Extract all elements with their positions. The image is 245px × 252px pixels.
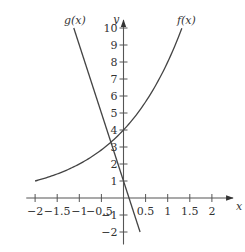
y-tick-label: 10 [104,22,118,35]
y-tick-label: 4 [111,124,118,137]
f-label: f(x) [176,14,196,27]
y-tick-label: 5 [111,107,118,120]
y-tick-label: −2 [101,226,117,239]
y-tick-label: 8 [111,56,118,69]
curve-f [35,28,182,181]
x-tick-label: −1.5 [44,205,71,218]
labels: xy−2−1.5−1−0.50.511.52−2−112345678910g(x… [27,13,243,239]
x-tick-label: −2 [27,205,43,218]
x-tick-label: 0.5 [137,205,155,218]
y-tick-label: 6 [111,90,118,103]
y-tick-label: 1 [111,175,118,188]
y-tick-label: 9 [111,39,118,52]
y-tick-label: 2 [111,158,118,171]
curve-g [74,28,140,232]
x-tick-label: 1 [164,205,171,218]
chart-container: xy−2−1.5−1−0.50.511.52−2−112345678910g(x… [0,0,245,252]
y-tick-label: 7 [111,73,118,86]
x-axis-label: x [236,200,243,213]
x-tick-label: 2 [208,205,215,218]
x-tick-label: 1.5 [181,205,199,218]
y-tick-label: 3 [111,141,118,154]
g-label: g(x) [64,14,86,27]
function-plot: xy−2−1.5−1−0.50.511.52−2−112345678910g(x… [0,0,245,252]
y-tick-label: −1 [101,209,117,222]
x-tick-label: −1 [71,205,87,218]
